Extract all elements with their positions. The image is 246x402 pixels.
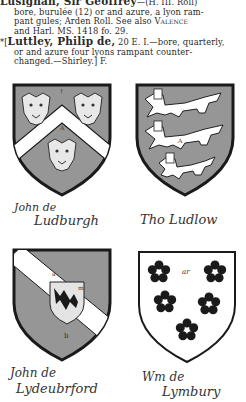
signature-lydburford-2: Lydeubrford (16, 381, 98, 396)
tincture-mark: A (177, 137, 183, 144)
tincture-mark: m (78, 284, 84, 291)
see-also-link: Valence (154, 16, 188, 26)
signature-lydburford-1: John de (10, 366, 56, 380)
entry-text: 20 E. I.—bore, quarterly, (115, 37, 224, 47)
shield-lymbury: ar (137, 250, 237, 365)
entry-name: Luttley, Philip de, (8, 35, 116, 47)
entry-prefix: *[ (0, 37, 8, 47)
entry-text: changed.—Shirley.] F. (0, 57, 246, 67)
shield-ludburgh: † A (12, 83, 112, 198)
entry-text: —(H. III. Roll) (137, 0, 197, 7)
armorial-entry-luttley: *[Luttley, Philip de, 20 E. I.—bore, qua… (0, 37, 246, 67)
tincture-mark: b (64, 332, 69, 340)
entry-name: Lusignan, Sir Geoffrey (0, 0, 137, 7)
signature-lymbury-2: Lymbury (162, 384, 220, 399)
entry-text: pant gules; Arden Roll. See also (14, 16, 154, 26)
shield-lydburford: a m b (12, 248, 112, 363)
armorial-entry-lusignan: Lusignan, Sir Geoffrey—(H. III. Roll) bo… (0, 0, 246, 36)
signature-ludlow: Tho Ludlow (140, 212, 217, 227)
signature-lymbury-1: Wm de (142, 370, 184, 384)
tincture-mark: ar (182, 268, 190, 276)
tincture-mark: a (52, 270, 56, 277)
signature-ludburgh-2: Ludburgh (34, 213, 99, 228)
tincture-mark: A (59, 124, 65, 131)
tincture-mark: † (60, 87, 63, 94)
shield-ludlow: A (135, 83, 235, 198)
